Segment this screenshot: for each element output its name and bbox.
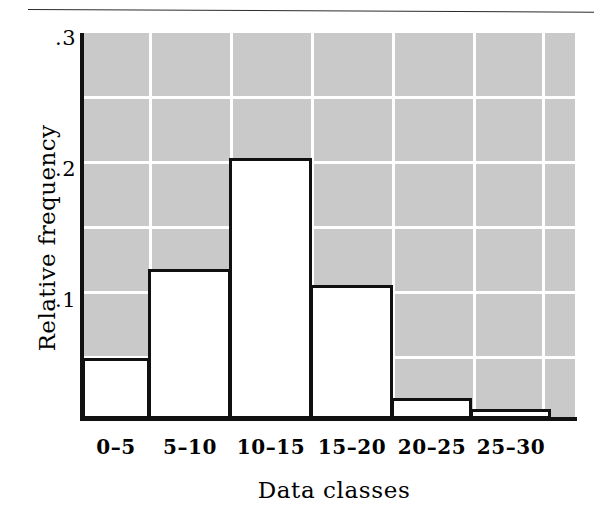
x-tick-label-15-20: 15–20 (311, 435, 393, 459)
y-axis-line (80, 33, 84, 421)
y-tick-label-0.3: .3 (55, 28, 76, 49)
histogram-figure: .3 .2 .1 Relative frequency 0–5 5–10 10–… (0, 0, 600, 517)
x-axis-line (80, 417, 577, 421)
x-tick-label-20-25: 20–25 (391, 435, 473, 459)
x-tick-label-0-5: 0–5 (76, 435, 156, 459)
gridline-horizontal-0.15 (82, 226, 575, 229)
y-axis-title: Relative frequency (34, 123, 60, 353)
bar-10-15 (229, 158, 312, 419)
x-tick-label-5-10: 5–10 (149, 435, 231, 459)
gridline-horizontal-0.20 (82, 161, 575, 164)
page-rule-divider (28, 9, 594, 13)
x-tick-label-10-15: 10–15 (230, 435, 312, 459)
x-tick-label-25-30: 25–30 (470, 435, 552, 459)
x-axis-title: Data classes (0, 477, 600, 503)
gridline-horizontal-0.25 (82, 96, 575, 99)
gridline-vertical-5 (473, 33, 476, 419)
x-axis-title-text: Data classes (258, 477, 411, 503)
bar-5-10 (148, 269, 231, 419)
bar-0-5 (82, 358, 150, 419)
bar-15-20 (310, 285, 393, 419)
gridline-vertical-6 (542, 33, 545, 419)
bar-20-25 (391, 398, 472, 419)
